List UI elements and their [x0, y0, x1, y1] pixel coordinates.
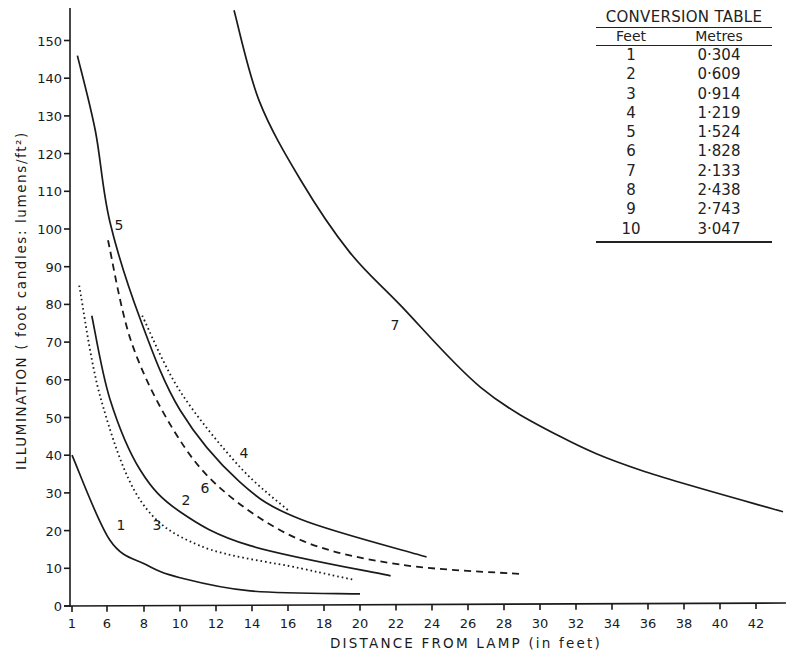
- cell-feet: 8: [596, 181, 666, 200]
- conversion-row: 103·047: [596, 220, 772, 239]
- cell-metres: 2·743: [666, 200, 772, 219]
- cell-feet: 3: [596, 85, 666, 104]
- y-tick-label: 50: [45, 411, 62, 426]
- curve-label-7: 7: [391, 317, 400, 333]
- cell-metres: 0·609: [666, 65, 772, 84]
- x-tick-label: 34: [604, 616, 621, 631]
- y-tick-label: 100: [37, 222, 62, 237]
- y-tick-label: 120: [37, 147, 62, 162]
- cell-metres: 0·914: [666, 85, 772, 104]
- x-tick-label: 26: [460, 616, 477, 631]
- curve-label-6: 6: [201, 480, 210, 496]
- cell-feet: 2: [596, 65, 666, 84]
- cell-feet: 6: [596, 142, 666, 161]
- x-tick-label: 10: [172, 616, 189, 631]
- conversion-row: 10·304: [596, 46, 772, 65]
- x-tick-label: 36: [640, 616, 657, 631]
- x-tick-label: 1: [68, 616, 76, 631]
- x-tick-label: 30: [532, 616, 549, 631]
- cell-feet: 4: [596, 104, 666, 123]
- cell-metres: 3·047: [666, 220, 772, 239]
- header-feet: Feet: [596, 28, 666, 44]
- curve-label-4: 4: [240, 445, 249, 461]
- curve-label-2: 2: [182, 492, 191, 508]
- y-tick-label: 10: [45, 561, 62, 576]
- cell-metres: 2·133: [666, 162, 772, 181]
- x-tick-label: 8: [140, 616, 148, 631]
- cell-feet: 7: [596, 162, 666, 181]
- y-axis-title: ILLUMINATION ( foot candles: lumens/ft²): [13, 131, 29, 470]
- x-tick-label: 20: [352, 616, 369, 631]
- y-tick-label: 150: [37, 34, 62, 49]
- y-tick-label: 30: [45, 486, 62, 501]
- x-ticks: 1681012141618202224262830323436384042: [68, 603, 764, 631]
- cell-metres: 0·304: [666, 46, 772, 65]
- y-tick-label: 80: [45, 297, 62, 312]
- conversion-row: 61·828: [596, 142, 772, 161]
- x-tick-label: 42: [748, 616, 765, 631]
- y-tick-label: 40: [45, 448, 62, 463]
- x-tick-label: 32: [568, 616, 585, 631]
- cell-metres: 1·524: [666, 123, 772, 142]
- curve-labels: 1234567: [115, 217, 400, 533]
- x-tick-label: 40: [712, 616, 729, 631]
- cell-metres: 2·438: [666, 181, 772, 200]
- conversion-row: 82·438: [596, 181, 772, 200]
- table-bottom-rule: [596, 241, 772, 243]
- y-tick-label: 110: [37, 184, 62, 199]
- cell-feet: 9: [596, 200, 666, 219]
- x-tick-label: 38: [676, 616, 693, 631]
- curve-label-1: 1: [117, 517, 126, 533]
- y-tick-label: 20: [45, 524, 62, 539]
- y-tick-label: 0: [54, 599, 62, 614]
- header-metres: Metres: [666, 28, 772, 44]
- y-ticks: 0102030405060708090100110120130140150: [37, 34, 70, 615]
- conversion-row: 20·609: [596, 65, 772, 84]
- x-tick-label: 16: [280, 616, 297, 631]
- x-axis-title: DISTANCE FROM LAMP (in feet): [330, 635, 602, 651]
- cell-feet: 1: [596, 46, 666, 65]
- y-tick-label: 130: [37, 109, 62, 124]
- conversion-row: 51·524: [596, 123, 772, 142]
- x-tick-label: 22: [388, 616, 405, 631]
- cell-feet: 10: [596, 220, 666, 239]
- x-tick-label: 12: [208, 616, 225, 631]
- x-tick-label: 24: [424, 616, 441, 631]
- conversion-table-header: Feet Metres: [596, 28, 772, 46]
- curve-label-3: 3: [153, 517, 162, 533]
- conversion-table-rows: 10·30420·60930·91441·21951·52461·82872·1…: [596, 46, 772, 239]
- conversion-row: 30·914: [596, 85, 772, 104]
- x-tick-label: 18: [316, 616, 333, 631]
- y-tick-label: 70: [45, 335, 62, 350]
- curve-3: [79, 286, 353, 580]
- conversion-row: 92·743: [596, 200, 772, 219]
- x-tick-label: 6: [103, 616, 111, 631]
- curve-label-5: 5: [115, 217, 124, 233]
- conversion-row: 72·133: [596, 162, 772, 181]
- y-tick-label: 140: [37, 71, 62, 86]
- y-tick-label: 90: [45, 260, 62, 275]
- conversion-row: 41·219: [596, 104, 772, 123]
- conversion-table: CONVERSION TABLE Feet Metres 10·30420·60…: [596, 8, 772, 243]
- cell-metres: 1·828: [666, 142, 772, 161]
- cell-feet: 5: [596, 123, 666, 142]
- x-tick-label: 14: [244, 616, 261, 631]
- y-tick-label: 60: [45, 373, 62, 388]
- x-tick-label: 28: [496, 616, 513, 631]
- conversion-table-title: CONVERSION TABLE: [596, 8, 772, 28]
- cell-metres: 1·219: [666, 104, 772, 123]
- x-axis: [64, 603, 786, 606]
